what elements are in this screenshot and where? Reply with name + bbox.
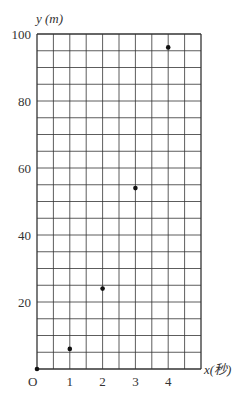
data-point <box>166 45 171 50</box>
data-point <box>100 286 105 291</box>
y-axis-label: y (m) <box>34 11 63 26</box>
y-tick-label: 40 <box>18 228 31 243</box>
x-tick-label: 1 <box>67 374 74 389</box>
origin-label: O <box>28 374 37 389</box>
y-tick-label: 60 <box>18 161 31 176</box>
data-point <box>133 186 138 191</box>
tick-labels: 123420406080100 <box>12 27 172 389</box>
y-tick-label: 80 <box>18 94 31 109</box>
x-tick-label: 2 <box>99 374 106 389</box>
x-axis-label: x(秒) <box>203 362 231 377</box>
data-point <box>68 347 73 352</box>
y-tick-label: 100 <box>12 27 32 42</box>
y-tick-label: 20 <box>18 295 31 310</box>
chart-grid <box>37 34 201 369</box>
chart: 123420406080100 y (m) x(秒) O <box>0 0 234 407</box>
x-tick-label: 4 <box>165 374 172 389</box>
data-point <box>35 367 40 372</box>
x-tick-label: 3 <box>132 374 139 389</box>
